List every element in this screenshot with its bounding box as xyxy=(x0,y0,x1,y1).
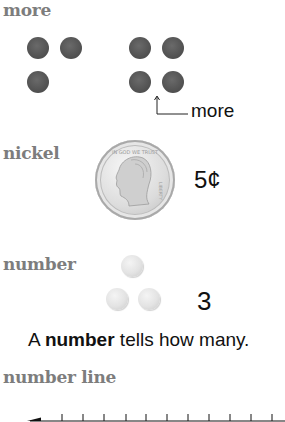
counter-dot xyxy=(106,288,128,310)
counter-dot xyxy=(162,71,184,93)
number-definition: A number tells how many. xyxy=(28,330,249,349)
pointer-arrow-icon xyxy=(150,94,192,118)
counter-dot xyxy=(60,37,82,59)
number-count-value: 3 xyxy=(197,288,211,314)
counter-dot xyxy=(27,37,49,59)
definition-prefix: A xyxy=(28,329,45,350)
nickel-coin-icon: IN GOD WE TRUST LIBERTY xyxy=(95,140,175,220)
counter-dot xyxy=(27,71,49,93)
counter-dot xyxy=(121,255,143,277)
arrow-left-icon xyxy=(27,418,41,422)
number-line-diagram xyxy=(0,405,285,422)
jefferson-profile-icon: IN GOD WE TRUST LIBERTY xyxy=(95,140,175,220)
counter-dot xyxy=(162,37,184,59)
term-nickel-heading: nickel xyxy=(3,145,59,162)
svg-text:IN GOD WE TRUST: IN GOD WE TRUST xyxy=(112,149,159,155)
nickel-value: 5¢ xyxy=(194,168,221,192)
svg-text:LIBERTY: LIBERTY xyxy=(158,182,163,200)
term-more-heading: more xyxy=(3,2,51,19)
more-label: more xyxy=(191,101,234,120)
term-number-line-heading: number line xyxy=(3,369,116,386)
definition-suffix: tells how many. xyxy=(115,329,250,350)
counter-dot xyxy=(129,71,151,93)
counter-dot xyxy=(138,288,160,310)
definition-bold-term: number xyxy=(45,329,115,350)
counter-dot xyxy=(129,37,151,59)
term-number-heading: number xyxy=(3,256,76,273)
